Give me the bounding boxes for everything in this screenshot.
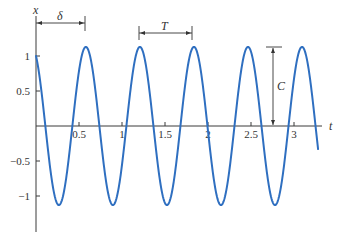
- amplitude-label: C: [277, 79, 286, 93]
- y-tick-label: 1: [25, 50, 31, 62]
- x-tick-label: 1.5: [158, 128, 172, 140]
- x-tick-label: 1: [119, 128, 125, 140]
- amplitude-dimension: C: [266, 47, 286, 125]
- x-axis-label: t: [329, 119, 333, 133]
- delta-dimension: δ: [36, 9, 85, 31]
- period-label: T: [161, 19, 169, 33]
- y-tick-label: 0.5: [16, 85, 30, 97]
- y-tick-label: −1: [18, 190, 30, 202]
- period-dimension: T: [139, 19, 192, 40]
- x-tick-label: 2.5: [244, 128, 258, 140]
- x-tick-label: 0.5: [72, 128, 86, 140]
- x-tick-label: 3: [291, 128, 297, 140]
- oscillation-chart: x t 0.511.522.53 10.5−0.5−1 δ T C: [0, 0, 344, 241]
- y-axis-label: x: [32, 3, 39, 17]
- delta-label: δ: [57, 9, 63, 23]
- y-tick-label: −0.5: [10, 155, 30, 167]
